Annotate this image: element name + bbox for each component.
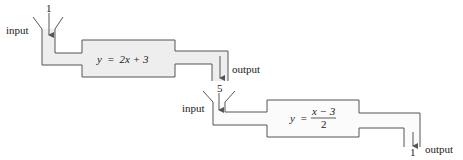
machine-2-function-numerator: x − 3: [311, 105, 336, 117]
machine-1-function-lhs: y: [96, 53, 102, 65]
machine-1-function: y = 2x + 3: [96, 53, 149, 65]
function-machine-diagram: 1 input output 5 y = 2x + 3 input output…: [0, 0, 463, 160]
machine-1-input-value: 1: [46, 2, 52, 14]
machine-2-output-label: output: [425, 143, 453, 155]
machine-2-function-lhs: y: [289, 112, 295, 124]
machine-1-function-eq: =: [108, 53, 114, 65]
machine-2: input output 1 y = x − 3 2: [182, 91, 453, 158]
machine-1-output-label: output: [232, 63, 260, 75]
machine-1-input-label: input: [6, 24, 29, 36]
machine-2-function-eq: =: [301, 112, 307, 124]
machine-1-function-rhs: 2x + 3: [120, 53, 149, 65]
machine-2-input-label: input: [182, 102, 205, 114]
machine-1-funnel-icon: [33, 17, 63, 29]
machine-2-function-denominator: 2: [321, 118, 327, 130]
machine-1: 1 input output 5 y = 2x + 3: [6, 2, 260, 94]
machine-1-output-value: 5: [217, 82, 223, 94]
machine-2-output-value: 1: [410, 146, 416, 158]
